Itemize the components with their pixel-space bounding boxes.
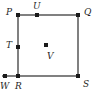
label-w: W bbox=[0, 82, 9, 91]
bottom-edge-line bbox=[2, 75, 79, 77]
point-q bbox=[76, 13, 80, 17]
top-edge-line bbox=[18, 14, 79, 16]
point-v bbox=[44, 43, 48, 47]
label-t: T bbox=[6, 41, 12, 50]
right-edge-line bbox=[77, 15, 79, 77]
label-r: R bbox=[15, 82, 22, 91]
point-p bbox=[16, 13, 20, 17]
label-v: V bbox=[47, 52, 54, 61]
label-q: Q bbox=[84, 8, 91, 17]
geometry-diagram: P U Q T V W R S bbox=[0, 0, 96, 97]
point-w bbox=[3, 74, 7, 78]
point-t bbox=[16, 45, 20, 49]
point-u bbox=[35, 13, 39, 17]
point-s bbox=[76, 74, 80, 78]
label-s: S bbox=[83, 80, 89, 89]
label-u: U bbox=[33, 2, 41, 11]
label-p: P bbox=[6, 8, 12, 17]
point-r bbox=[16, 74, 20, 78]
